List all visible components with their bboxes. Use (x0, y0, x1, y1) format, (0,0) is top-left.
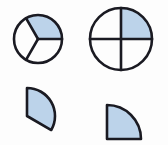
detached-quarter-sector-shape (107, 105, 141, 139)
circle-divided-in-thirds (14, 15, 62, 63)
fraction-shapes-figure (0, 0, 168, 145)
detached-quarter-sector (107, 105, 141, 139)
detached-third-sector (15, 81, 64, 137)
fraction-shapes-canvas (0, 0, 168, 145)
circle-divided-in-quarters (90, 8, 152, 70)
detached-third-sector-shape (15, 81, 64, 137)
